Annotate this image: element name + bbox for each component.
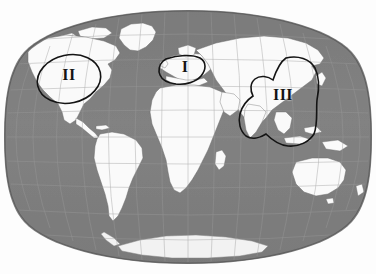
world-map-graphic: [0, 0, 376, 274]
world-map-figure: I II III: [0, 0, 376, 274]
region-label-I: I: [176, 59, 194, 75]
region-label-II: II: [58, 67, 80, 83]
region-label-III: III: [268, 87, 298, 103]
